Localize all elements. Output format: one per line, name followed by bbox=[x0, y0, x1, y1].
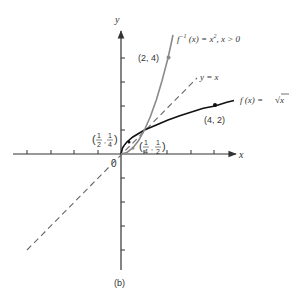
svg-text:4: 4 bbox=[144, 148, 148, 155]
svg-text:1: 1 bbox=[156, 139, 160, 146]
point-label-half-quarter: ( 1 2 , 1 4 ) bbox=[92, 132, 118, 148]
svg-text:4: 4 bbox=[108, 141, 112, 148]
f-inverse-point-2-4 bbox=[167, 56, 171, 60]
svg-text:1: 1 bbox=[144, 139, 148, 146]
svg-text:): ) bbox=[162, 140, 166, 152]
x-axis-label: x bbox=[238, 149, 244, 160]
f-inverse-point-half bbox=[132, 147, 135, 150]
f-point-label: (4, 2) bbox=[204, 115, 225, 125]
svg-text:√x: √x bbox=[275, 95, 284, 105]
svg-text:,: , bbox=[104, 137, 106, 144]
identity-line bbox=[27, 78, 197, 250]
svg-text:(: ( bbox=[139, 140, 143, 152]
f-curve-label: f (x) = √x bbox=[240, 94, 289, 105]
y-axis-label: y bbox=[114, 14, 120, 25]
f-sqrt-curve bbox=[121, 101, 234, 155]
svg-text:): ) bbox=[114, 133, 118, 145]
f-point-4-2 bbox=[213, 103, 217, 107]
f-point-half-quarter-sqrt bbox=[128, 141, 131, 144]
f-inverse-point-label: (2, 4) bbox=[138, 53, 159, 63]
svg-text:1: 1 bbox=[108, 132, 112, 139]
svg-text:,: , bbox=[151, 144, 153, 151]
svg-text:2: 2 bbox=[156, 148, 160, 155]
svg-text:2: 2 bbox=[97, 141, 101, 148]
svg-text:(: ( bbox=[92, 133, 96, 145]
figure-caption: (b) bbox=[114, 278, 125, 288]
identity-line-label: y = x bbox=[199, 72, 219, 82]
point-label-quarter-half: ( 1 4 , 1 2 ) bbox=[139, 139, 166, 155]
svg-text:f (x) =: f (x) = bbox=[240, 95, 263, 105]
svg-text:1: 1 bbox=[97, 132, 101, 139]
f-inverse-curve-label: f−1 (x) = x2, x > 0 bbox=[177, 33, 240, 44]
function-inverse-diagram: x y 0 y = x (4, 2) f (x) = √x (2, 4) f−1… bbox=[0, 0, 297, 297]
